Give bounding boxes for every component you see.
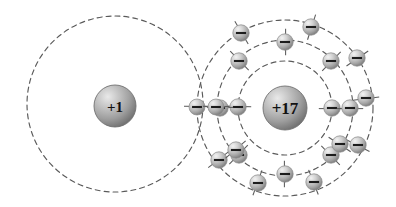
diagram-canvas: +1+17 <box>0 0 396 207</box>
nucleus-chlorine: +17 <box>263 86 307 130</box>
electron-cl-m-7 <box>208 151 229 168</box>
electron-cl-m-8 <box>233 21 249 44</box>
electron-cl-l-1 <box>277 29 293 55</box>
nucleus-hydrogen: +1 <box>94 85 136 127</box>
electron-cl-l-5 <box>277 161 293 187</box>
electron-cl-m-1 <box>303 15 319 40</box>
atom-bonding-diagram: +1+17 <box>0 0 396 207</box>
electron-cl-l-8 <box>230 51 248 70</box>
nucleus-sphere-chlorine <box>263 86 307 130</box>
nucleus-sphere-hydrogen <box>94 85 136 127</box>
electron-cl-m-2 <box>347 50 369 66</box>
electron-cl-k-2 <box>319 100 345 116</box>
shared-electron-1 <box>184 99 210 115</box>
electron-cl-m-6 <box>250 170 266 195</box>
electron-cl-l-2 <box>322 52 340 71</box>
